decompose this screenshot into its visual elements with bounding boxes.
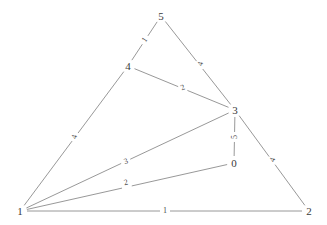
graph-edge-1-4 [78,72,124,133]
graph-edge-1-3 [130,113,228,159]
graph-edge-4-3 [134,69,178,87]
edge-weight-label-5-3: 4 [195,60,205,67]
graph-node-3[interactable]: 3 [232,104,238,116]
graph-node-0[interactable]: 0 [231,157,237,169]
edge-weight-label-3-0: 5 [230,135,239,139]
graph-edge-1-4 [24,141,72,205]
edge-weight-label-1-4: 4 [69,133,79,140]
graph-edge-1-0 [132,165,227,186]
edge-weight-label-4-3: 2 [179,82,186,92]
edge-weight-label-1-3: 3 [122,156,129,166]
graph-node-2[interactable]: 2 [306,205,312,217]
graph-canvas: 142453241 012345 [0,0,327,225]
nodes-layer: 012345 [14,10,316,218]
graph-edge-3-2 [239,116,269,157]
edge-weight-label-5-4: 1 [140,36,150,44]
edge-weight-label-1-0: 2 [123,178,129,188]
graph-node-5[interactable]: 5 [158,10,164,22]
graph-node-4[interactable]: 4 [125,60,131,72]
graph-node-1[interactable]: 1 [17,205,23,217]
graph-edge-5-3 [203,69,231,104]
graph-edge-5-3 [165,22,196,62]
graph-svg: 142453241 012345 [0,0,327,225]
graph-edge-1-3 [26,163,121,208]
graph-edge-1-0 [27,188,122,209]
edges-layer [24,22,305,211]
graph-edge-4-3 [187,90,228,107]
graph-edge-5-4 [132,44,143,60]
edge-weight-label-3-2: 4 [267,156,277,163]
graph-edge-5-4 [148,22,157,36]
graph-edge-3-2 [275,165,305,206]
edge-weight-label-1-2: 1 [163,206,167,215]
